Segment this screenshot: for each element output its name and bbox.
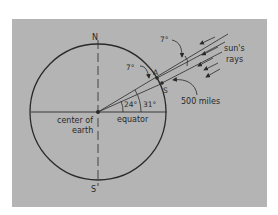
angle-7-outer-label: 7° — [160, 35, 169, 44]
center-label: center of — [57, 116, 93, 125]
north-label: N — [92, 33, 98, 42]
angle-24-label: 24° — [124, 100, 138, 109]
point-s — [160, 81, 164, 85]
distance-label: 500 miles — [181, 97, 220, 106]
point-s-label: S — [163, 86, 168, 95]
equator-label: equator — [117, 115, 149, 124]
sun-rays-label: sun's — [224, 44, 245, 53]
callout-7-outer — [172, 40, 182, 57]
south-label: S — [91, 185, 96, 194]
angle-7-inner-label: 7° — [126, 63, 135, 72]
earth-diagram: N S center of earth equator A S 24° 31° … — [0, 0, 278, 215]
sun-rays-label-2: rays — [226, 55, 243, 64]
center-label-2: earth — [72, 126, 93, 135]
sun-ray-line — [162, 52, 222, 83]
callout-500-miles — [173, 80, 197, 95]
angle-arc-24 — [121, 101, 123, 112]
point-a-label: A — [153, 68, 159, 77]
sun-rays-arrows — [198, 37, 220, 77]
callout-7-inner — [140, 66, 149, 78]
angle-arc-7-outer — [185, 56, 188, 66]
sun-ray-line — [157, 42, 225, 78]
angle-31-label: 31° — [143, 100, 157, 109]
